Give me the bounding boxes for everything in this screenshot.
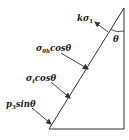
diagram-canvas: θ kσ1 σθhcosθ σtcosθ p3sinθ bbox=[0, 0, 129, 140]
sigma-theta-h-arrow bbox=[61, 53, 88, 69]
p3-arrow bbox=[32, 108, 51, 124]
theta-arc bbox=[111, 30, 125, 32]
force-diagram: θ kσ1 σθhcosθ σtcosθ p3sinθ bbox=[0, 0, 129, 140]
sigma-t-arrow bbox=[51, 82, 70, 98]
k-sigma1-label: kσ1 bbox=[77, 13, 93, 24]
k-sigma1-arrow bbox=[95, 22, 108, 32]
sigma-theta-h-cos-label: σθhcosθ bbox=[36, 43, 72, 54]
p3-sin-label: p3sinθ bbox=[6, 99, 36, 110]
theta-label: θ bbox=[113, 34, 119, 44]
sigma-t-cos-label: σtcosθ bbox=[26, 73, 56, 84]
